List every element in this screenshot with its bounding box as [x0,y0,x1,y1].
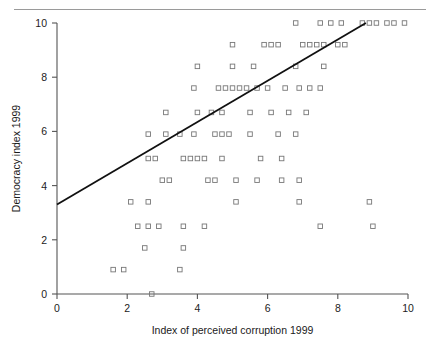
data-point-marker [230,42,235,47]
x-tick-label: 6 [265,302,271,314]
data-point-marker [160,178,165,183]
data-point-marker [234,178,239,183]
data-point-marker [255,178,260,183]
x-tick-label: 10 [402,302,414,314]
data-point-marker [293,132,298,137]
data-point-marker [164,132,169,137]
data-point-marker [223,86,228,91]
data-point-marker [202,224,207,229]
data-point-marker [279,156,284,161]
data-point-marker [192,132,197,137]
data-point-marker [276,42,281,47]
data-point-marker [262,42,267,47]
data-point-marker [213,132,218,137]
figure-container: 02468100246810Index of perceived corrupt… [0,0,438,345]
data-point-marker [146,132,151,137]
data-point-marker [269,42,274,47]
data-point-marker [300,42,305,47]
data-point-marker [216,86,221,91]
y-tick-label: 4 [41,180,47,192]
data-point-marker [297,200,302,205]
data-point-marker [297,86,302,91]
x-tick-label: 8 [335,302,341,314]
data-point-marker [279,178,284,183]
data-point-marker [167,178,172,183]
data-point-marker [307,86,312,91]
x-axis-title: Index of perceived corruption 1999 [152,324,314,336]
data-point-marker [146,224,151,229]
data-point-marker [227,132,232,137]
y-axis-title: Democracy index 1999 [10,105,22,213]
data-point-marker [269,110,274,115]
data-point-marker [188,156,193,161]
regression-line [57,23,366,205]
data-point-marker [135,224,140,229]
data-point-marker [329,21,334,26]
data-point-marker [251,64,256,69]
data-point-marker [181,246,186,251]
y-tick-label: 8 [41,71,47,83]
data-point-marker [206,178,211,183]
data-point-marker [343,42,348,47]
scatter-plot: 02468100246810Index of perceived corrupt… [0,0,438,345]
data-point-marker [220,156,225,161]
data-point-marker [146,200,151,205]
data-point-marker [286,110,291,115]
data-point-marker [336,42,341,47]
data-point-marker [304,110,309,115]
data-point-marker [371,224,376,229]
data-point-marker [385,21,390,26]
data-point-marker [146,156,151,161]
data-point-marker [195,156,200,161]
data-point-marker [307,42,312,47]
data-point-marker [220,110,225,115]
data-point-marker [248,110,253,115]
y-tick-label: 6 [41,125,47,137]
data-point-marker [265,86,270,91]
x-tick-label: 0 [54,302,60,314]
data-point-marker [297,178,302,183]
data-point-marker [276,132,281,137]
data-points-group [111,21,407,297]
data-point-marker [237,86,242,91]
data-point-marker [111,267,116,272]
data-point-marker [339,21,344,26]
data-point-marker [164,110,169,115]
data-point-marker [220,132,225,137]
data-point-marker [121,267,126,272]
data-point-marker [248,132,253,137]
data-point-marker [244,86,249,91]
data-point-marker [192,86,197,91]
y-tick-label: 0 [41,288,47,300]
data-point-marker [402,21,407,26]
y-tick-label: 10 [35,17,47,29]
y-tick-label: 2 [41,234,47,246]
data-point-marker [213,178,218,183]
data-point-marker [367,21,372,26]
data-point-marker [195,64,200,69]
data-point-marker [258,156,263,161]
trendline-group [57,23,366,205]
data-point-marker [181,156,186,161]
data-point-marker [234,200,239,205]
data-point-marker [153,156,158,161]
data-point-marker [143,246,148,251]
data-point-marker [392,21,397,26]
data-point-marker [128,200,133,205]
x-tick-label: 4 [194,302,200,314]
data-point-marker [318,21,323,26]
data-point-marker [230,86,235,91]
data-point-marker [202,156,207,161]
axis-labels-group: 02468100246810Index of perceived corrupt… [10,17,414,336]
data-point-marker [367,200,372,205]
data-point-marker [293,21,298,26]
data-point-marker [318,86,323,91]
data-point-marker [178,267,183,272]
data-point-marker [181,224,186,229]
data-point-marker [318,224,323,229]
x-tick-label: 2 [124,302,130,314]
data-point-marker [157,224,162,229]
data-point-marker [230,64,235,69]
data-point-marker [374,21,379,26]
data-point-marker [314,42,319,47]
